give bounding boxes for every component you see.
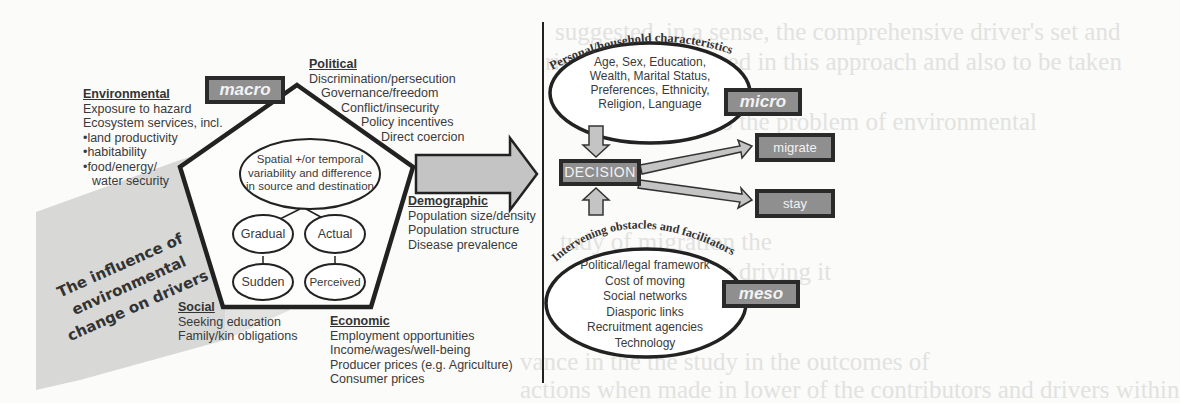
- environmental-item: •food/energy/: [83, 160, 223, 175]
- perceived-label: Perceived: [305, 275, 365, 290]
- stay-label: stay: [783, 196, 807, 211]
- economic-item: Consumer prices: [330, 372, 513, 387]
- actual-label: Actual: [305, 227, 365, 242]
- intervening-item: Recruitment agencies: [565, 320, 725, 336]
- environmental-block: Environmental Exposure to hazard Ecosyst…: [83, 87, 223, 189]
- intervening-item: Social networks: [565, 289, 725, 305]
- personal-item: Religion, Language: [575, 97, 725, 111]
- political-item: Conflict/insecurity: [309, 101, 464, 116]
- intervening-item: Diasporic links: [565, 305, 725, 321]
- environmental-item: Ecosystem services, incl.: [83, 116, 223, 131]
- political-item: Discrimination/persecution: [309, 72, 464, 87]
- intervening-item: Cost of moving: [565, 274, 725, 290]
- demographic-item: Population structure: [408, 223, 536, 238]
- macro-label: macro: [219, 80, 270, 99]
- meso-box: meso: [722, 280, 800, 308]
- personal-items: Age, Sex, Education, Wealth, Marital Sta…: [575, 55, 725, 111]
- environmental-item: Exposure to hazard: [83, 102, 223, 117]
- intervening-item: Technology: [565, 336, 725, 352]
- political-block: Political Discrimination/persecution Gov…: [309, 57, 464, 144]
- political-item: Governance/freedom: [309, 86, 464, 101]
- arrow-to-stay: [638, 180, 752, 208]
- personal-item: Preferences, Ethnicity,: [575, 83, 725, 97]
- variability-line: Spatial +/or temporal: [240, 153, 380, 167]
- demographic-item: Disease prevalence: [408, 238, 536, 253]
- social-block: Social Seeking education Family/kin obli…: [178, 300, 298, 344]
- intervening-items: Political/legal framework Cost of moving…: [565, 258, 725, 351]
- variability-line: variability and difference: [240, 167, 380, 181]
- economic-item: Employment opportunities: [330, 329, 513, 344]
- political-title: Political: [309, 57, 464, 72]
- economic-block: Economic Employment opportunities Income…: [330, 314, 513, 387]
- decision-label: DECISION: [564, 164, 636, 180]
- social-title: Social: [178, 300, 298, 315]
- demographic-block: Demographic Population size/density Popu…: [408, 194, 536, 252]
- meso-label: meso: [739, 284, 783, 303]
- variability-line: in source and destination: [240, 180, 380, 194]
- gradual-label: Gradual: [233, 227, 293, 242]
- economic-title: Economic: [330, 314, 513, 329]
- decision-box: DECISION: [559, 159, 641, 186]
- environmental-item: •land productivity: [83, 131, 223, 146]
- political-item: Direct coercion: [309, 130, 464, 145]
- micro-label: micro: [740, 92, 786, 111]
- environmental-item: •habitability: [83, 145, 223, 160]
- sudden-label: Sudden: [233, 275, 293, 290]
- variability-text: Spatial +/or temporal variability and di…: [240, 153, 380, 194]
- intervening-item: Political/legal framework: [565, 258, 725, 274]
- social-item: Family/kin obligations: [178, 329, 298, 344]
- micro-box: micro: [724, 88, 802, 116]
- arrow-to-migrate: [640, 140, 752, 174]
- migrate-box: migrate: [755, 133, 835, 162]
- stay-box: stay: [755, 189, 835, 218]
- personal-item: Age, Sex, Education,: [575, 55, 725, 69]
- migrate-label: migrate: [773, 140, 816, 155]
- economic-item: Income/wages/well-being: [330, 343, 513, 358]
- environmental-title: Environmental: [83, 87, 223, 102]
- personal-item: Wealth, Marital Status,: [575, 69, 725, 83]
- demographic-title: Demographic: [408, 194, 536, 209]
- environmental-item: water security: [83, 174, 223, 189]
- demographic-item: Population size/density: [408, 209, 536, 224]
- political-item: Policy incentives: [309, 115, 464, 130]
- social-item: Seeking education: [178, 315, 298, 330]
- economic-item: Producer prices (e.g. Agriculture): [330, 358, 513, 373]
- up-arrow: [583, 188, 609, 215]
